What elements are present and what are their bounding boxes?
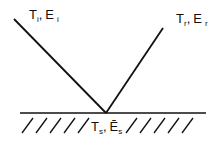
reflected-label: Tr,Er xyxy=(176,11,208,28)
reflection-diagram: Ti,Ei Tr,Er Ts,Ēs xyxy=(0,0,220,146)
incident-label: Ti,Ei xyxy=(29,7,59,24)
incident-ray xyxy=(14,19,106,113)
reflected-ray xyxy=(106,28,163,113)
surface-hatching-left xyxy=(22,118,89,133)
surface-label: Ts,Ēs xyxy=(91,119,122,136)
surface-hatching-right xyxy=(126,118,193,133)
